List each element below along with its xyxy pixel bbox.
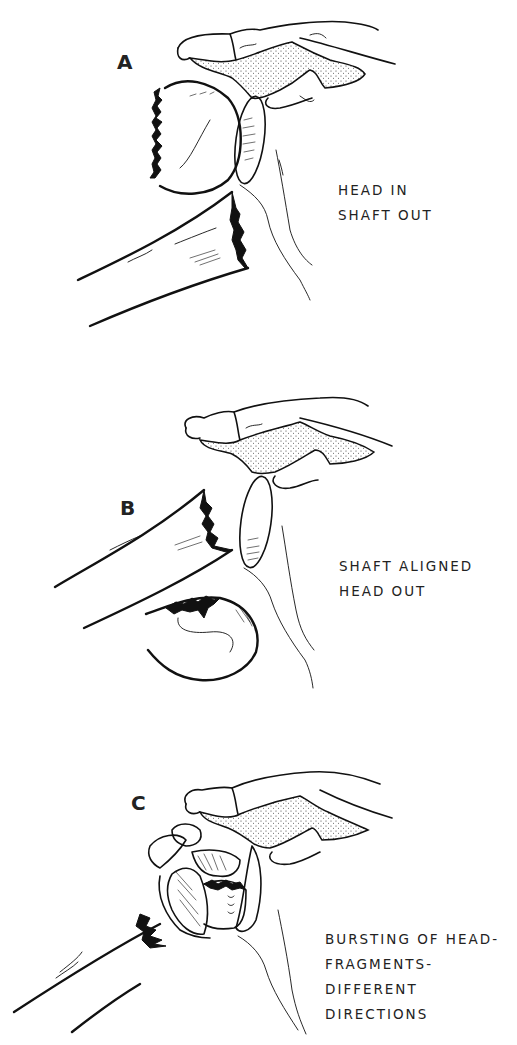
panel-b-caption: SHAFT ALIGNED HEAD OUT xyxy=(339,554,473,604)
caption-line: SHAFT ALIGNED xyxy=(339,554,473,579)
panel-a-letter: A xyxy=(117,52,132,72)
caption-line: DIFFERENT xyxy=(325,977,499,1002)
panel-a-drawing xyxy=(0,0,517,340)
caption-line: BURSTING OF HEAD- xyxy=(325,927,499,952)
panel-c-caption: BURSTING OF HEAD- FRAGMENTS- DIFFERENT D… xyxy=(325,927,499,1027)
caption-line: FRAGMENTS- xyxy=(325,952,499,977)
caption-line: HEAD OUT xyxy=(339,579,473,604)
caption-line: HEAD IN xyxy=(338,178,433,203)
fracture-figure: A HEAD IN SHAFT OUT xyxy=(0,0,517,1045)
panel-a: A HEAD IN SHAFT OUT xyxy=(0,0,517,340)
caption-line: DIRECTIONS xyxy=(325,1002,499,1027)
panel-b: B SHAFT ALIGNED HEAD OUT xyxy=(0,340,517,700)
caption-line: SHAFT OUT xyxy=(338,203,433,228)
panel-b-letter: B xyxy=(120,498,135,518)
panel-a-caption: HEAD IN SHAFT OUT xyxy=(338,178,433,228)
panel-b-drawing xyxy=(0,340,517,700)
panel-c-letter: C xyxy=(131,793,146,813)
panel-c: C BURSTING OF HEAD- FRAGMENTS- DIFFERENT… xyxy=(0,700,517,1045)
